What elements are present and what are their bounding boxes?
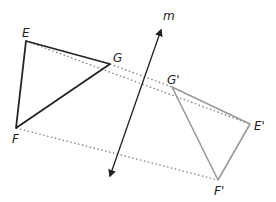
triangle-efg [16, 41, 110, 128]
connector-e-e-prime [26, 41, 250, 124]
reflection-diagram: m E G F G' E' F' [0, 0, 276, 202]
label-m: m [163, 9, 175, 23]
label-e-prime: E' [254, 119, 265, 133]
label-f: F [12, 132, 20, 146]
label-g: G [113, 51, 122, 65]
label-g-prime: G' [167, 73, 180, 87]
connector-g-g-prime [110, 64, 172, 87]
diagram-svg: m E G F G' E' F' [0, 0, 276, 202]
label-f-prime: F' [214, 184, 224, 198]
triangle-e-f-g-prime [172, 87, 250, 180]
label-e: E [22, 26, 30, 40]
